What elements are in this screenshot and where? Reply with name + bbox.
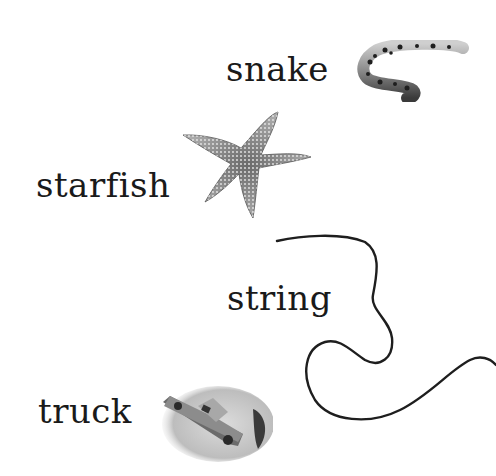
word-truck: truck [38, 394, 132, 428]
word-starfish: starfish [36, 168, 170, 202]
snake-image [355, 40, 470, 102]
string-image [270, 230, 496, 430]
starfish-image [183, 110, 313, 220]
toy-truck-image [158, 384, 273, 464]
word-snake: snake [226, 52, 329, 86]
